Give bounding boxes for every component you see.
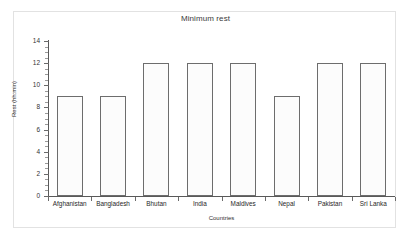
x-tick-label: Sri Lanka (352, 200, 395, 207)
x-tick-label: Afghanistan (48, 200, 91, 207)
x-tick-label: Pakistan (308, 200, 351, 207)
bar (187, 63, 213, 196)
y-tick-label: 14 (18, 37, 40, 44)
y-tick-label: 6 (18, 126, 40, 133)
x-axis-title: Countries (48, 215, 395, 221)
bar (274, 96, 300, 196)
bar (143, 63, 169, 196)
bar (230, 63, 256, 196)
y-tick-label: 10 (18, 81, 40, 88)
x-tick-label: Maldives (222, 200, 265, 207)
x-tick-label: Bangladesh (91, 200, 134, 207)
x-tick-label: Bhutan (135, 200, 178, 207)
bar (360, 63, 386, 196)
x-tick-label: Nepal (265, 200, 308, 207)
y-tick-label: 4 (18, 148, 40, 155)
y-tick-label: 8 (18, 103, 40, 110)
y-axis-title: Rest (hh:min) (11, 59, 17, 139)
y-tick-label: 0 (18, 192, 40, 199)
chart-figure: Minimum rest Rest (hh:min) Countries 024… (0, 0, 411, 242)
x-tick-label: India (178, 200, 221, 207)
y-tick-label: 2 (18, 170, 40, 177)
page-title: Minimum rest (0, 14, 411, 23)
bar (317, 63, 343, 196)
bar (57, 96, 83, 196)
x-tick (395, 197, 396, 201)
bar (100, 96, 126, 196)
y-tick-label: 12 (18, 59, 40, 66)
plot-area (48, 41, 395, 196)
